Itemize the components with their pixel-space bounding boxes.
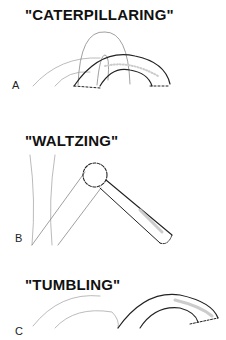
waltzing-drawing — [30, 155, 172, 245]
flap-diagram — [0, 0, 226, 340]
tumbling-drawing — [33, 294, 218, 328]
caterpillar-drawing — [33, 32, 170, 88]
